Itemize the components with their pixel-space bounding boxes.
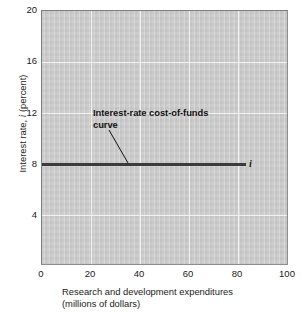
plot-area: i Interest-rate cost-of-funds curve — [41, 10, 288, 265]
curve-annotation-line1: Interest-rate cost-of-funds — [93, 107, 208, 119]
x-tick-label-60: 60 — [168, 269, 208, 279]
y-tick-label-20: 20 — [1, 5, 37, 15]
chart-figure: 20 16 12 8 4 Interest rate, i (percent) … — [0, 0, 301, 313]
annotation-leader-line — [108, 129, 132, 165]
x-axis-title-line1: Research and development expenditures — [62, 286, 282, 298]
x-tick-label-100: 100 — [267, 269, 301, 279]
y-axis-title-suffix: (percent) — [17, 75, 28, 115]
curve-symbol-i: i — [249, 159, 252, 169]
x-tick-label-20: 20 — [70, 269, 110, 279]
y-axis-title: Interest rate, i (percent) — [17, 49, 28, 199]
y-axis-title-prefix: Interest rate, — [17, 117, 28, 172]
y-tick-label-4: 4 — [1, 210, 37, 220]
gridline-vertical-60 — [189, 11, 190, 264]
x-tick-label-80: 80 — [217, 269, 257, 279]
y-axis-title-italic-i: i — [18, 115, 28, 118]
gridline-vertical-80 — [238, 11, 239, 264]
x-tick-label-40: 40 — [119, 269, 159, 279]
gridline-vertical-40 — [140, 11, 141, 264]
x-axis-title: Research and development expenditures (m… — [62, 286, 282, 310]
gridline-horizontal-16 — [42, 62, 287, 63]
x-axis-title-line2: (millions of dollars) — [62, 298, 282, 310]
gridline-horizontal-4 — [42, 215, 287, 216]
x-tick-label-0: 0 — [21, 269, 61, 279]
curve-annotation-line2: curve — [93, 119, 208, 131]
gridline-vertical-20 — [91, 11, 92, 264]
curve-annotation: Interest-rate cost-of-funds curve — [93, 107, 208, 130]
interest-rate-cost-of-funds-curve — [42, 163, 246, 166]
